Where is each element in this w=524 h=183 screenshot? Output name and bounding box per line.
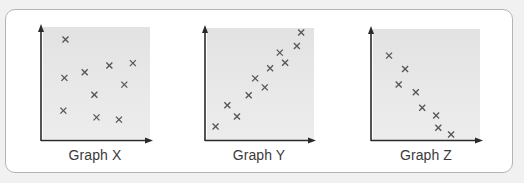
graph-z-markers [386,53,454,138]
graph-z-label: Graph Z [356,147,496,163]
x-marker-icon [448,131,454,137]
x-marker-icon [386,53,392,59]
graph-z-x-axis-arrow-icon [475,138,483,144]
x-marker-icon [419,105,425,111]
x-marker-icon [433,113,439,119]
x-marker-icon [396,82,402,88]
x-marker-icon [402,66,408,72]
graph-z-y-axis-arrow-icon [368,26,374,34]
x-marker-icon [435,125,441,131]
x-marker-icon [413,89,419,95]
